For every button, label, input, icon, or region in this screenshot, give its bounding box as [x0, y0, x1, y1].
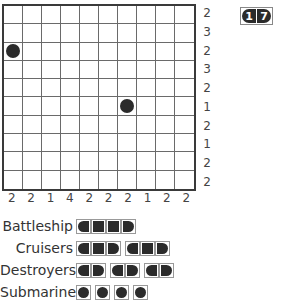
grid-cell[interactable] — [99, 79, 118, 97]
grid-cell[interactable] — [80, 6, 99, 24]
grid-cell[interactable] — [137, 152, 156, 170]
grid-cell[interactable] — [137, 116, 156, 134]
grid-cell[interactable] — [137, 171, 156, 189]
grid-cell[interactable] — [99, 134, 118, 152]
grid-cell[interactable] — [4, 79, 23, 97]
grid-cell[interactable] — [156, 79, 175, 97]
grid-cell[interactable] — [175, 134, 194, 152]
grid-cell[interactable] — [175, 79, 194, 97]
grid-cell[interactable] — [80, 134, 99, 152]
grid-cell[interactable] — [23, 6, 42, 24]
grid-cell[interactable] — [42, 43, 61, 61]
grid-cell[interactable] — [61, 61, 80, 79]
grid-cell[interactable] — [80, 97, 99, 115]
grid-cell[interactable] — [23, 61, 42, 79]
grid-cell[interactable] — [42, 61, 61, 79]
grid-cell[interactable] — [61, 152, 80, 170]
grid-cell[interactable] — [61, 79, 80, 97]
grid-cell[interactable] — [137, 134, 156, 152]
grid-cell[interactable] — [175, 116, 194, 134]
grid-cell[interactable] — [4, 171, 23, 189]
grid-cell[interactable] — [4, 116, 23, 134]
grid-cell[interactable] — [4, 97, 23, 115]
grid-cell[interactable] — [137, 61, 156, 79]
grid-cell[interactable] — [156, 134, 175, 152]
grid-cell[interactable] — [137, 43, 156, 61]
grid-cell[interactable] — [23, 97, 42, 115]
grid-cell[interactable] — [118, 79, 137, 97]
grid-cell[interactable] — [61, 116, 80, 134]
grid-cell[interactable] — [42, 97, 61, 115]
grid-cell[interactable] — [156, 24, 175, 42]
grid-cell[interactable] — [175, 61, 194, 79]
grid-cell[interactable] — [23, 43, 42, 61]
grid-cell[interactable] — [156, 97, 175, 115]
grid-cell[interactable] — [118, 43, 137, 61]
grid-cell[interactable] — [99, 43, 118, 61]
grid-cell[interactable] — [23, 134, 42, 152]
grid-cell[interactable] — [23, 24, 42, 42]
grid-cell[interactable] — [80, 116, 99, 134]
grid-cell[interactable] — [175, 24, 194, 42]
grid-cell[interactable] — [118, 171, 137, 189]
grid-cell[interactable] — [23, 79, 42, 97]
grid-cell[interactable] — [61, 6, 80, 24]
grid-cell[interactable] — [137, 97, 156, 115]
grid-cell[interactable] — [99, 116, 118, 134]
grid-cell[interactable] — [156, 152, 175, 170]
grid-cell[interactable] — [80, 61, 99, 79]
grid-cell[interactable] — [118, 24, 137, 42]
grid-cell[interactable] — [23, 152, 42, 170]
grid-cell[interactable] — [118, 61, 137, 79]
grid-cell[interactable] — [156, 171, 175, 189]
grid-cell[interactable] — [175, 6, 194, 24]
grid-cell[interactable] — [99, 152, 118, 170]
grid-cell[interactable] — [137, 24, 156, 42]
grid-cell[interactable] — [156, 61, 175, 79]
grid-cell[interactable] — [137, 79, 156, 97]
grid-cell[interactable] — [99, 171, 118, 189]
grid-cell[interactable] — [4, 6, 23, 24]
grid-cell[interactable] — [4, 24, 23, 42]
grid-cell[interactable] — [156, 116, 175, 134]
grid-cell[interactable] — [4, 43, 23, 61]
grid-cell[interactable] — [61, 43, 80, 61]
grid-cell[interactable] — [42, 116, 61, 134]
grid-cell[interactable] — [118, 6, 137, 24]
grid-cell[interactable] — [99, 6, 118, 24]
grid-cell[interactable] — [175, 43, 194, 61]
grid-cell[interactable] — [99, 61, 118, 79]
grid-cell[interactable] — [156, 43, 175, 61]
grid-cell[interactable] — [99, 97, 118, 115]
grid-cell[interactable] — [80, 24, 99, 42]
grid-cell[interactable] — [118, 134, 137, 152]
grid-cell[interactable] — [175, 152, 194, 170]
grid-cell[interactable] — [175, 97, 194, 115]
grid-cell[interactable] — [137, 6, 156, 24]
grid-cell[interactable] — [42, 152, 61, 170]
grid-cell[interactable] — [118, 97, 137, 115]
grid-cell[interactable] — [4, 134, 23, 152]
grid-cell[interactable] — [80, 79, 99, 97]
grid-cell[interactable] — [23, 116, 42, 134]
grid-cell[interactable] — [175, 171, 194, 189]
grid-cell[interactable] — [4, 152, 23, 170]
grid-cell[interactable] — [118, 152, 137, 170]
grid-cell[interactable] — [61, 171, 80, 189]
grid-cell[interactable] — [42, 79, 61, 97]
grid-cell[interactable] — [80, 43, 99, 61]
grid-cell[interactable] — [80, 171, 99, 189]
grid-cell[interactable] — [42, 171, 61, 189]
grid-cell[interactable] — [4, 61, 23, 79]
grid-cell[interactable] — [42, 24, 61, 42]
grid-cell[interactable] — [99, 24, 118, 42]
grid-cell[interactable] — [156, 6, 175, 24]
grid-cell[interactable] — [42, 134, 61, 152]
grid-cell[interactable] — [61, 97, 80, 115]
grid-cell[interactable] — [118, 116, 137, 134]
grid-cell[interactable] — [42, 6, 61, 24]
grid-cell[interactable] — [61, 134, 80, 152]
grid-cell[interactable] — [61, 24, 80, 42]
grid-cell[interactable] — [80, 152, 99, 170]
grid-cell[interactable] — [23, 171, 42, 189]
